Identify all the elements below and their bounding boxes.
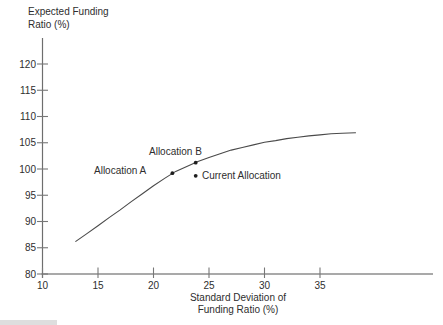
- data-point-allocation-b: [194, 161, 198, 165]
- allocation-b-label: Allocation B: [149, 146, 202, 157]
- x-tick-label: 30: [259, 280, 271, 291]
- y-tick-label: 95: [25, 190, 37, 201]
- y-axis-title: Expected Funding Ratio (%): [28, 6, 109, 31]
- scan-artifact: [0, 320, 57, 325]
- x-axis-title-line1: Standard Deviation of: [157, 292, 319, 304]
- x-axis-title-line2: Funding Ratio (%): [157, 304, 319, 316]
- funding-ratio-chart: 10152025303580859095100105110115120 Expe…: [0, 0, 443, 325]
- chart-canvas: 10152025303580859095100105110115120: [0, 0, 443, 325]
- y-axis-title-line1: Expected Funding: [28, 6, 109, 19]
- x-tick-label: 20: [148, 280, 160, 291]
- efficient-frontier-curve: [76, 133, 356, 242]
- data-point-allocation-a: [171, 171, 175, 175]
- y-axis-title-line2: Ratio (%): [28, 19, 109, 32]
- data-point-current-allocation: [194, 174, 198, 178]
- y-tick-label: 115: [20, 85, 36, 96]
- allocation-a-label: Allocation A: [94, 165, 146, 176]
- x-tick-label: 10: [37, 280, 49, 291]
- y-tick-label: 85: [25, 242, 37, 253]
- x-tick-label: 25: [203, 280, 215, 291]
- y-tick-label: 90: [25, 216, 37, 227]
- y-tick-label: 80: [25, 269, 37, 280]
- y-tick-label: 120: [19, 59, 36, 70]
- x-tick-label: 15: [92, 280, 104, 291]
- y-tick-label: 105: [19, 137, 36, 148]
- x-tick-label: 35: [314, 280, 326, 291]
- current-allocation-label: Current Allocation: [202, 170, 281, 181]
- y-tick-label: 100: [19, 164, 36, 175]
- x-axis-title: Standard Deviation of Funding Ratio (%): [157, 292, 319, 316]
- y-tick-label: 110: [20, 111, 36, 122]
